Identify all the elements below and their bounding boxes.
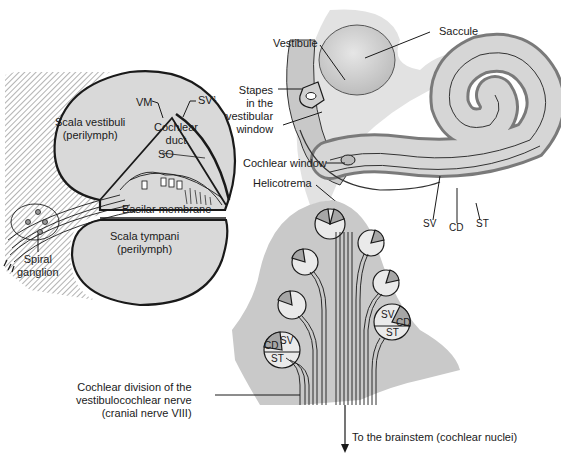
spiral-ganglion-label: Spiral ganglion bbox=[17, 253, 59, 279]
cochlea-overview bbox=[278, 9, 546, 223]
brainstem-label: To the brainstem (cochlear nuclei) bbox=[352, 431, 517, 444]
left-turn-st-label: ST bbox=[271, 353, 284, 365]
cochlea-anatomy-diagram: Scala vestibuli (perilymph) VM SV1 Cochl… bbox=[0, 0, 561, 461]
vm-label: VM bbox=[136, 96, 153, 109]
right-turn-sv-label: SV bbox=[381, 309, 394, 321]
right-turn-st-label: ST bbox=[386, 327, 399, 339]
left-turn-cd-label: CD bbox=[264, 340, 278, 352]
saccule-label: Saccule bbox=[439, 25, 478, 38]
cochlear-window-label: Cochlear window bbox=[243, 157, 327, 170]
modiolus-section bbox=[215, 200, 460, 453]
scala-tympani-label: Scala tympani (perilymph) bbox=[110, 230, 179, 256]
cochlear-duct-label: Cochlear duct bbox=[154, 121, 198, 147]
helicotrema-label: Helicotrema bbox=[253, 177, 312, 190]
sv1-label: SV1 bbox=[198, 94, 217, 107]
cochlear-nerve-label: Cochlear division of the vestibulocochle… bbox=[76, 381, 192, 420]
stapes-label: Stapes in the vestibular window bbox=[226, 84, 273, 136]
vestibule-label: Vestibule bbox=[273, 37, 318, 50]
sv-label: SV bbox=[423, 218, 436, 230]
cd-label: CD bbox=[449, 222, 463, 234]
scala-vestibuli-label: Scala vestibuli (perilymph) bbox=[55, 116, 125, 142]
so-label: SO bbox=[158, 148, 174, 161]
left-turn-sv-label: SV bbox=[280, 335, 293, 347]
st-label: ST bbox=[476, 218, 489, 230]
basilar-membrane-label: Basilar membrane bbox=[122, 203, 211, 216]
